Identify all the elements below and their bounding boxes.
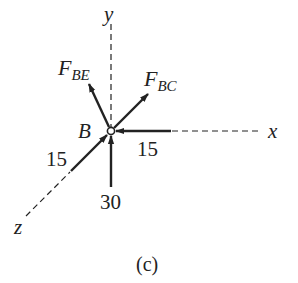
x-axis-label: x xyxy=(267,119,278,143)
force-15-x-label: 15 xyxy=(137,137,158,161)
force-fbe-arrow xyxy=(89,84,109,127)
fbe-label: FBE xyxy=(57,55,90,83)
y-axis-label: y xyxy=(102,2,114,26)
free-body-diagram: y x z B FBE FBC 15 15 30 (c) xyxy=(0,0,298,283)
point-b-circle xyxy=(107,127,114,134)
z-axis-dashed xyxy=(26,172,70,216)
force-fbc-arrow xyxy=(114,94,148,128)
force-30-label: 30 xyxy=(100,190,121,214)
fbc-symbol: F xyxy=(143,66,158,91)
z-axis-label: z xyxy=(13,215,22,239)
fbe-subscript: BE xyxy=(71,67,89,83)
figure-caption: (c) xyxy=(136,253,158,276)
fbe-symbol: F xyxy=(57,55,72,80)
fbc-subscript: BC xyxy=(157,78,177,94)
fbc-label: FBC xyxy=(143,66,178,94)
point-b-label: B xyxy=(78,119,91,143)
force-15-z-label: 15 xyxy=(46,147,67,171)
